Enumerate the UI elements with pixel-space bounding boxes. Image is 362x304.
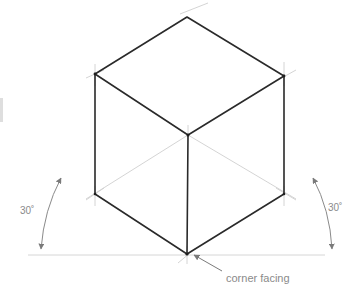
corner-pointer-arrow xyxy=(194,255,222,271)
cube-edge-center-to-bottom xyxy=(187,135,188,254)
corner-facing-label: corner facing xyxy=(226,273,290,284)
angle-arc-left xyxy=(41,178,61,249)
angle-arc-right xyxy=(313,178,332,249)
cube-edge-right-top-to-center xyxy=(188,76,284,135)
isometric-cube-diagram xyxy=(0,0,362,304)
angle-label-left: 30˚ xyxy=(20,206,34,216)
vertex-dots xyxy=(94,73,286,256)
cube-edge-left-top-to-center xyxy=(95,74,188,135)
angle-label-right: 30˚ xyxy=(328,203,342,213)
